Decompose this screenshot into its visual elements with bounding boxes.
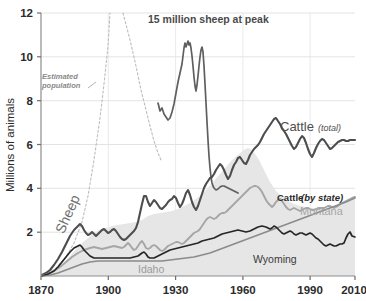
series-label-cattle-total: Cattle [280, 119, 314, 134]
y-tick-label-8: 8 [27, 95, 34, 107]
x-tick-label-1990: 1990 [297, 284, 323, 296]
x-tick-label-1900: 1900 [96, 284, 122, 296]
chart-container: 12 10 8 6 4 2 1870 1900 1930 1960 1990 2… [0, 0, 366, 301]
y-axis-title: Millions of animals [4, 98, 16, 192]
y-tick-label-6: 6 [27, 139, 33, 151]
annotation-peak-note: 15 million sheep at peak [148, 13, 269, 25]
series-label-idaho: Idaho [138, 263, 164, 275]
y-tick-label-2: 2 [27, 226, 33, 238]
x-tick-label-1960: 1960 [230, 284, 256, 296]
series-label-wyoming: Wyoming [253, 253, 297, 265]
x-tick-label-2010: 2010 [341, 284, 366, 296]
series-label-cattle-total-paren: (total) [318, 123, 341, 133]
annotation-estimated-line1: Estimated [42, 72, 78, 81]
annotation-estimated-line2: population [41, 81, 81, 90]
series-label-montana: Montana [300, 205, 344, 217]
x-tick-label-1870: 1870 [28, 284, 54, 296]
livestock-population-chart: 12 10 8 6 4 2 1870 1900 1930 1960 1990 2… [0, 0, 366, 301]
series-label-cattle-by-state-paren: (by state) [301, 192, 343, 203]
series-label-cattle-by-state: Cattle [277, 192, 303, 203]
y-tick-label-4: 4 [27, 182, 34, 194]
x-tick-label-1930: 1930 [163, 284, 189, 296]
y-tick-label-10: 10 [20, 51, 33, 63]
y-tick-label-12: 12 [20, 7, 33, 19]
